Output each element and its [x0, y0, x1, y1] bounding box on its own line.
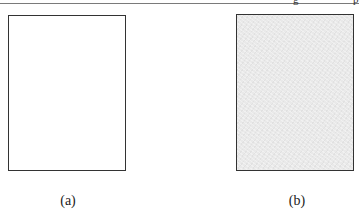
- header-text-fragment: p: [353, 0, 359, 5]
- header-text-fragment: g: [293, 0, 299, 5]
- figure-panel-b: [236, 14, 354, 171]
- caption-b: (b): [277, 193, 317, 209]
- header-rule: [0, 3, 359, 4]
- figure-panel-a: [8, 15, 126, 171]
- caption-a: (a): [48, 193, 88, 209]
